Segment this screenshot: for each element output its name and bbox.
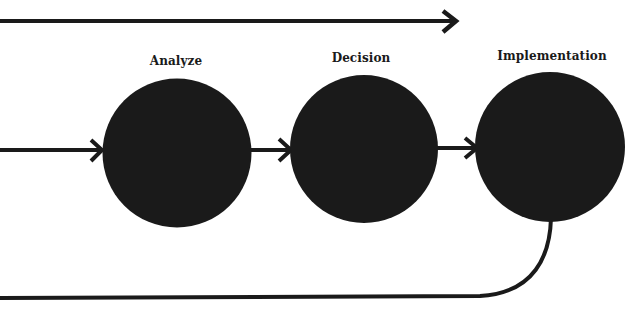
stage-circle-analyze <box>103 79 252 228</box>
feedback-line <box>0 218 551 298</box>
stage-circle-decision <box>290 75 438 223</box>
stage-circle-implementation <box>475 72 625 222</box>
process-flow-diagram: Analyze Decision Implementation <box>0 0 642 310</box>
arrow-decision-to-implementation <box>437 138 477 158</box>
stage-label-decision: Decision <box>332 51 391 65</box>
arrow-analyze-to-decision <box>250 139 291 161</box>
stage-label-implementation: Implementation <box>497 49 607 63</box>
overall-direction-arrow <box>0 11 456 32</box>
stage-label-analyze: Analyze <box>150 54 203 68</box>
input-arrow <box>0 140 102 161</box>
diagram-graphics <box>0 0 642 310</box>
